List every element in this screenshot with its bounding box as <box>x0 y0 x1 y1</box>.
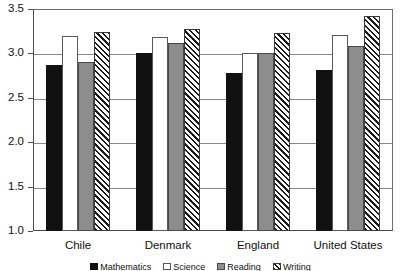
legend-label: Reading <box>227 262 261 271</box>
y-axis-tick <box>28 231 33 232</box>
category-label: United States <box>303 239 393 251</box>
bar-chart: 1.01.52.02.53.03.5 ChileDenmarkEnglandUn… <box>0 0 401 271</box>
bar <box>94 32 110 231</box>
y-axis-tick <box>28 187 33 188</box>
bar <box>364 16 380 231</box>
y-axis-tick-label: 3.0 <box>0 47 24 59</box>
legend-swatch <box>273 263 281 270</box>
legend-swatch <box>217 263 225 270</box>
bar <box>46 65 62 231</box>
bar <box>226 73 242 231</box>
y-axis-tick-label: 3.5 <box>0 3 24 15</box>
bar <box>136 53 152 231</box>
bar <box>62 36 78 231</box>
y-axis-tick-label: 2.5 <box>0 92 24 104</box>
legend-label: Mathematics <box>100 262 151 271</box>
y-axis-tick-label: 1.5 <box>0 181 24 193</box>
bar <box>348 46 364 231</box>
legend-label: Science <box>173 262 205 271</box>
y-axis-tick <box>28 142 33 143</box>
category-label: Chile <box>33 239 123 251</box>
legend-swatch <box>90 263 98 270</box>
category-label: England <box>213 239 303 251</box>
y-axis-tick <box>28 98 33 99</box>
bar <box>242 53 258 231</box>
legend-entry: Science <box>163 262 205 271</box>
chart-legend: MathematicsScienceReadingWriting <box>0 262 401 271</box>
legend-swatch <box>163 263 171 270</box>
category-label: Denmark <box>123 239 213 251</box>
bar <box>184 29 200 231</box>
legend-label: Writing <box>283 262 311 271</box>
bar <box>274 33 290 231</box>
bar <box>332 35 348 231</box>
y-axis-tick-label: 1.0 <box>0 225 24 237</box>
legend-entry: Writing <box>273 262 311 271</box>
bar <box>168 43 184 231</box>
bar <box>258 53 274 231</box>
y-axis-tick <box>28 53 33 54</box>
y-axis-tick <box>28 9 33 10</box>
legend-entry: Mathematics <box>90 262 151 271</box>
legend-entry: Reading <box>217 262 261 271</box>
bar <box>316 70 332 231</box>
bar <box>152 37 168 231</box>
bar <box>78 62 94 231</box>
y-axis-tick-label: 2.0 <box>0 136 24 148</box>
